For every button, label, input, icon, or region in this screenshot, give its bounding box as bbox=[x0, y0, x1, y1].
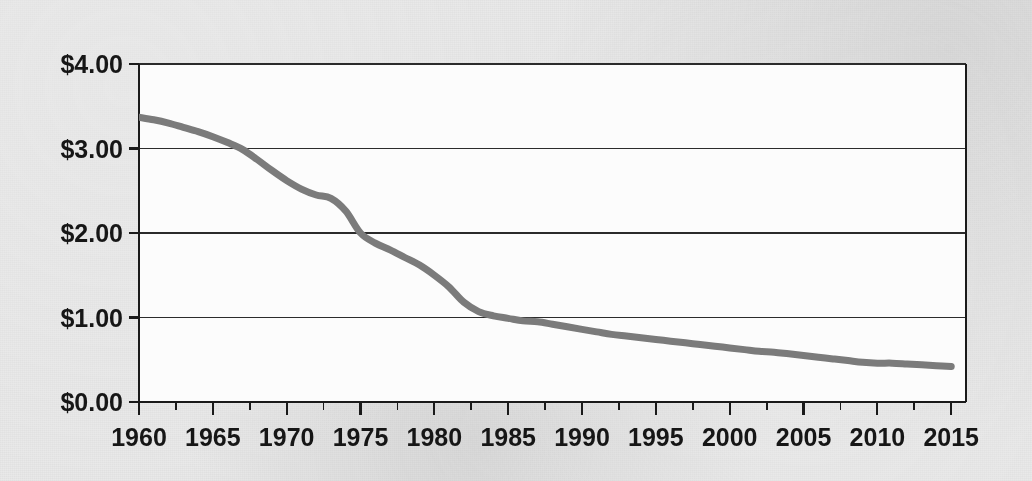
y-axis-ticks bbox=[129, 64, 139, 402]
x-axis-tick-labels: 1960196519701975198019851990199520002005… bbox=[111, 423, 979, 451]
x-tick-label: 1980 bbox=[407, 423, 463, 451]
y-tick-label: $2.00 bbox=[60, 219, 123, 247]
x-tick-label: 2010 bbox=[850, 423, 906, 451]
x-tick-label: 1995 bbox=[628, 423, 684, 451]
chart-figure: a scanned page with faint text showing t… bbox=[0, 0, 1032, 481]
y-tick-label: $1.00 bbox=[60, 304, 123, 332]
x-tick-label: 1965 bbox=[185, 423, 241, 451]
y-tick-label: $4.00 bbox=[60, 50, 123, 78]
x-tick-label: 2005 bbox=[776, 423, 832, 451]
x-tick-label: 1985 bbox=[480, 423, 536, 451]
plot-container: $0.00$1.00$2.00$3.00$4.00 19601965197019… bbox=[0, 0, 1032, 481]
line-chart-svg: $0.00$1.00$2.00$3.00$4.00 19601965197019… bbox=[0, 0, 1032, 481]
x-tick-label: 1960 bbox=[111, 423, 167, 451]
x-tick-label: 1975 bbox=[333, 423, 389, 451]
y-tick-label: $3.00 bbox=[60, 135, 123, 163]
x-tick-label: 1990 bbox=[554, 423, 610, 451]
x-tick-label: 2015 bbox=[923, 423, 979, 451]
y-tick-label: $0.00 bbox=[60, 388, 123, 416]
x-tick-label: 1970 bbox=[259, 423, 315, 451]
x-tick-label: 2000 bbox=[702, 423, 758, 451]
y-axis-tick-labels: $0.00$1.00$2.00$3.00$4.00 bbox=[60, 50, 123, 416]
